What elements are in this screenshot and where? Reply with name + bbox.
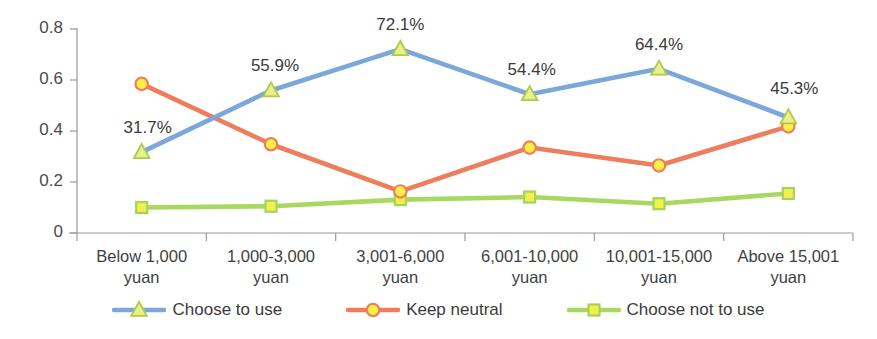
x-axis-category-label-line: yuan — [724, 267, 853, 288]
legend-label: Choose not to use — [627, 300, 765, 320]
legend-item-2[interactable]: Choose not to use — [567, 300, 765, 320]
y-axis-tick-label: 0.2 — [0, 171, 63, 191]
data-point-marker — [367, 304, 379, 316]
x-axis-category-label-line: 1,000-3,000 — [206, 246, 335, 267]
data-point-marker — [135, 78, 147, 90]
x-axis-category-label-line: yuan — [336, 267, 465, 288]
x-axis-category-label: 3,001-6,000yuan — [336, 246, 465, 288]
x-axis-category-label: Below 1,000yuan — [77, 246, 206, 288]
x-axis-category-label-line: 6,001-10,000 — [465, 246, 594, 267]
data-point-marker — [265, 138, 277, 150]
data-point-marker — [783, 188, 794, 199]
data-point-marker — [588, 305, 599, 316]
data-label: 64.4% — [623, 35, 695, 55]
data-point-marker — [654, 198, 665, 209]
line-chart: 00.20.40.60.8 Below 1,000yuan1,000-3,000… — [0, 0, 877, 339]
data-label: 72.1% — [364, 15, 436, 35]
legend-label: Keep neutral — [406, 300, 502, 320]
x-axis-category-label-line: Above 15,001 — [724, 246, 853, 267]
data-point-marker — [523, 141, 535, 153]
series-line — [142, 84, 789, 192]
x-axis-category-label-line: yuan — [594, 267, 723, 288]
data-label: 45.3% — [758, 79, 830, 99]
legend-label: Choose to use — [172, 300, 282, 320]
series-2 — [136, 188, 794, 213]
x-axis-category-label: Above 15,001yuan — [724, 246, 853, 288]
data-point-marker — [136, 202, 147, 213]
legend-marker-icon — [567, 300, 621, 320]
legend-marker-icon — [346, 300, 400, 320]
series-1 — [135, 78, 794, 198]
data-point-marker — [266, 201, 277, 212]
x-axis-category-label-line: 10,001-15,000 — [594, 246, 723, 267]
legend-item-1[interactable]: Keep neutral — [346, 300, 502, 320]
series-group — [134, 41, 796, 213]
data-label: 31.7% — [112, 118, 184, 138]
x-axis-category-label-line: yuan — [465, 267, 594, 288]
series-0 — [134, 41, 796, 158]
y-axis-tick-label: 0.4 — [0, 120, 63, 140]
y-axis-tick-label: 0 — [0, 222, 63, 242]
y-axis-tick-label: 0.6 — [0, 69, 63, 89]
data-point-marker — [394, 185, 406, 197]
x-axis-category-label: 1,000-3,000yuan — [206, 246, 335, 288]
series-line — [142, 193, 789, 207]
x-axis-category-label-line: Below 1,000 — [77, 246, 206, 267]
legend-marker-icon — [112, 300, 166, 320]
legend-item-0[interactable]: Choose to use — [112, 300, 282, 320]
x-axis-category-label-line: yuan — [206, 267, 335, 288]
x-axis-category-label: 10,001-15,000yuan — [594, 246, 723, 288]
data-label: 54.4% — [496, 60, 568, 80]
data-point-marker — [393, 41, 409, 55]
chart-legend: Choose to useKeep neutralChoose not to u… — [0, 300, 877, 320]
data-point-marker — [653, 159, 665, 171]
data-label: 55.9% — [239, 56, 311, 76]
x-axis-category-label-line: 3,001-6,000 — [336, 246, 465, 267]
x-axis-category-label: 6,001-10,000yuan — [465, 246, 594, 288]
data-point-marker — [524, 192, 535, 203]
y-axis-tick-label: 0.8 — [0, 18, 63, 38]
x-axis-category-label-line: yuan — [77, 267, 206, 288]
